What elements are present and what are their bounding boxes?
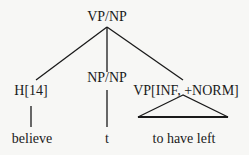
node-root: VP/NP bbox=[87, 9, 127, 25]
node-vpinf: VP[INF, +NORM] bbox=[133, 83, 239, 99]
leaf-t: t bbox=[105, 131, 109, 147]
leaf-to-have-left: to have left bbox=[153, 131, 216, 147]
leaf-believe: believe bbox=[12, 131, 52, 147]
node-npnp: NP/NP bbox=[87, 70, 127, 86]
node-h14: H[14] bbox=[14, 83, 47, 99]
